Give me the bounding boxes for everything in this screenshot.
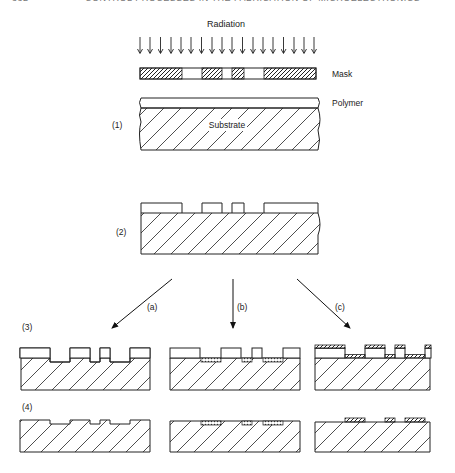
branch-c-label: (c): [335, 302, 345, 312]
step4c-stack: [315, 418, 430, 452]
step4b-stack: [170, 421, 300, 452]
branch-a-label: (a): [147, 302, 158, 312]
mask-label: Mask: [332, 69, 353, 79]
step3a-stack: [20, 348, 150, 390]
step3b-stack: [170, 348, 300, 390]
lithography-process-diagram: Radiation Mask Polymer Substrate: [0, 0, 455, 473]
radiation-arrows: [140, 37, 314, 53]
branch-b-label: (b): [237, 302, 248, 312]
mask: [140, 68, 316, 79]
step1-label: (1): [112, 120, 123, 130]
step2-stack: [141, 203, 320, 254]
step4a-stack: [20, 420, 150, 452]
polymer-label: Polymer: [332, 98, 363, 108]
step4-label: (4): [22, 402, 33, 412]
step3-label: (3): [22, 322, 33, 332]
step3c-stack: [315, 345, 431, 390]
step2-label: (2): [116, 227, 127, 237]
substrate-label: Substrate: [209, 120, 246, 130]
radiation-label: Radiation: [207, 19, 245, 29]
